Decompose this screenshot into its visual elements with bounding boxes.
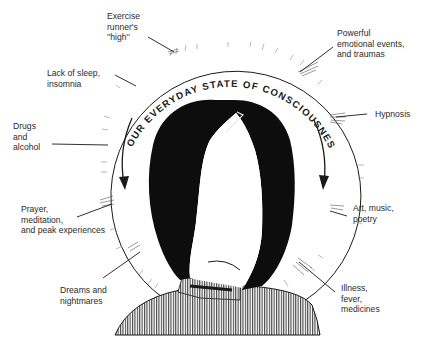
sweater-shoulders: [115, 278, 320, 335]
label-lack-of-sleep: Lack of sleep, insomnia: [47, 68, 100, 89]
label-powerful-emotional-events: Powerful emotional events, and traumas: [337, 28, 404, 60]
label-hypnosis: Hypnosis: [375, 109, 410, 120]
label-exercise-runners-high: Exercise runner's ''high'': [107, 11, 140, 43]
label-prayer-meditation: Prayer, meditation, and peak experiences: [21, 204, 105, 236]
consciousness-diagram: OUR EVERYDAY STATE OF CONSCIOUSNESS: [0, 0, 423, 345]
label-art-music-poetry: Art, music, poetry: [353, 203, 394, 224]
label-dreams-nightmares: Dreams and nightmares: [60, 285, 107, 306]
label-illness-fever-medicines: Illness, fever, medicines: [341, 283, 380, 315]
label-drugs-and-alcohol: Drugs and alcohol: [13, 121, 40, 153]
left-downward-arrow: [119, 118, 132, 190]
